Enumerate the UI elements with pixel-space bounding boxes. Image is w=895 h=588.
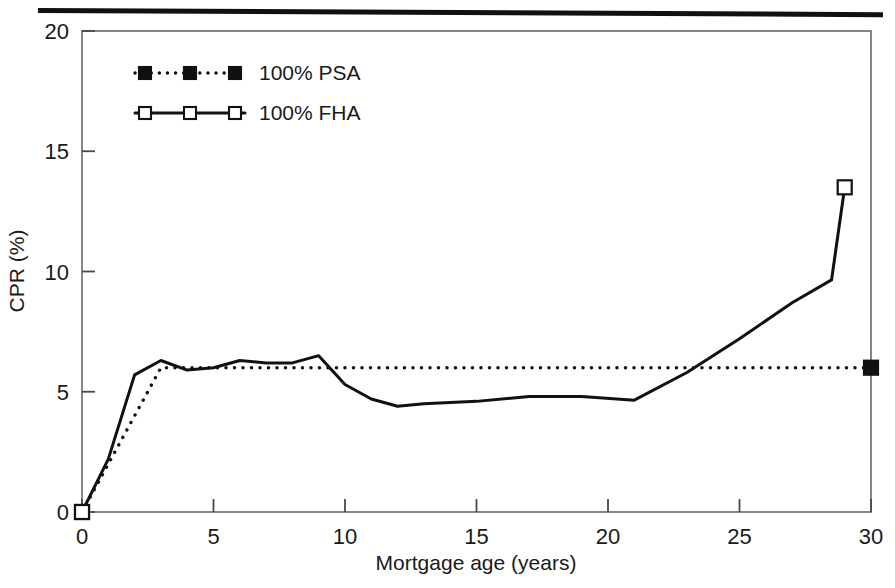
chart-legend: 100% PSA 100% FHA (135, 61, 361, 124)
x-tick-label: 20 (596, 524, 620, 549)
x-tick-label: 15 (464, 524, 488, 549)
legend-marker (229, 107, 241, 119)
plot-frame (82, 31, 871, 512)
series-fha (75, 180, 852, 519)
legend-marker (139, 67, 151, 79)
y-tick-label: 15 (45, 139, 69, 164)
series-layer (75, 180, 878, 519)
y-tick-label: 10 (45, 260, 69, 285)
legend-label-fha: 100% FHA (259, 101, 361, 124)
chart-canvas: 05101520 051015202530 Mortgage age (year… (0, 0, 895, 588)
series-line (82, 187, 845, 512)
legend-marker (184, 107, 196, 119)
y-tick-label: 20 (45, 19, 69, 44)
series-line (82, 368, 871, 512)
legend-marker (229, 67, 241, 79)
x-tick-label: 30 (859, 524, 883, 549)
legend-marker (184, 67, 196, 79)
legend-label-psa: 100% PSA (259, 61, 361, 84)
x-axis-title: Mortgage age (years) (376, 551, 577, 574)
x-tick-label: 0 (76, 524, 88, 549)
x-tick-label: 10 (333, 524, 357, 549)
y-axis: 05101520 (45, 19, 95, 525)
series-marker-open-square (838, 180, 852, 194)
legend-entry-psa: 100% PSA (135, 61, 361, 84)
figure-container: 05101520 051015202530 Mortgage age (year… (0, 0, 895, 588)
legend-sample-fha-solid-line (135, 107, 245, 119)
y-tick-label: 0 (57, 500, 69, 525)
plot-border (82, 31, 871, 512)
legend-marker (139, 107, 151, 119)
legend-entry-fha: 100% FHA (135, 101, 361, 124)
legend-sample-psa-dotted-line (135, 67, 245, 79)
x-tick-label: 25 (727, 524, 751, 549)
series-marker-open-square (75, 505, 89, 519)
series-marker-filled-square (864, 361, 878, 375)
y-axis-title: CPR (%) (5, 230, 28, 313)
x-axis: 051015202530 (76, 499, 883, 549)
x-tick-label: 5 (207, 524, 219, 549)
series-psa (75, 361, 878, 519)
y-tick-label: 5 (57, 380, 69, 405)
